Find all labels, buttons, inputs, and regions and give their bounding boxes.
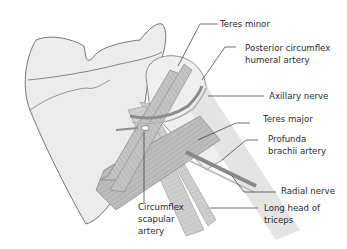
label-profunda-1: Profunda (268, 134, 306, 144)
label-axillary-nerve: Axillary nerve (269, 91, 328, 101)
label-teres-minor: Teres minor (219, 19, 270, 29)
label-long-head-2: triceps (264, 215, 294, 225)
anatomy-diagram: Teres minor Posterior circumflex humeral… (0, 0, 347, 249)
label-profunda-2: brachii artery (268, 146, 326, 156)
label-circumflex-scapular-3: artery (138, 226, 164, 236)
label-long-head-1: Long head of (264, 203, 321, 213)
label-circumflex-scapular-2: scapular (138, 214, 175, 224)
label-teres-major: Teres major (262, 114, 313, 124)
label-posterior-circumflex-1: Posterior circumflex (245, 43, 330, 53)
label-radial-nerve: Radial nerve (281, 186, 335, 196)
label-posterior-circumflex-2: humeral artery (245, 55, 310, 65)
label-circumflex-scapular-1: Circumflex (138, 202, 184, 212)
